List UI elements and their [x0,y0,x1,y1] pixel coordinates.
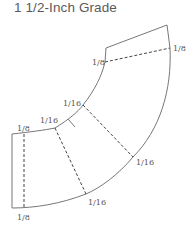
label-mid-lower: 1/16 [40,116,58,125]
label-left-top: 1/8 [17,124,30,133]
seam-line-middle [83,105,133,157]
notch-mark [68,119,75,127]
seam-line-lower [55,128,86,194]
label-left-bottom: 1/8 [17,213,30,222]
label-bottom-mid: 1/16 [88,198,106,207]
seam-line-top [105,48,170,62]
label-top-left: 1/8 [92,58,105,67]
label-right-lower: 1/16 [136,158,154,167]
label-mid-upper: 1/16 [63,99,81,108]
grade-pattern-diagram: 1/8 1/8 1/16 1/16 1/8 1/8 1/16 1/16 [0,0,194,225]
label-top-right: 1/8 [173,44,186,53]
pattern-outline [12,25,170,208]
